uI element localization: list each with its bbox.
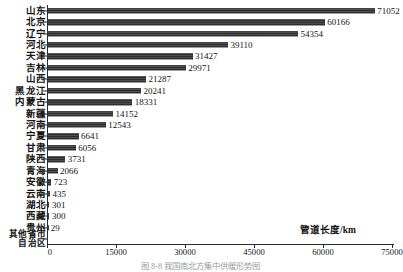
x-axis-tick-label: 15000 bbox=[105, 248, 126, 257]
figure-caption: 图 8-8 我国南北方集中供暖形势图 bbox=[0, 262, 401, 272]
x-axis-tick-label: 45000 bbox=[243, 248, 264, 257]
x-axis-tick-label: 30000 bbox=[174, 248, 195, 257]
x-axis-tick-label: 60000 bbox=[312, 248, 333, 257]
x-axis-tick-label: 75000 bbox=[381, 248, 402, 257]
x-axis-tick-label: 0 bbox=[48, 248, 52, 257]
x-axis-title: 管道长度/km bbox=[300, 225, 356, 235]
